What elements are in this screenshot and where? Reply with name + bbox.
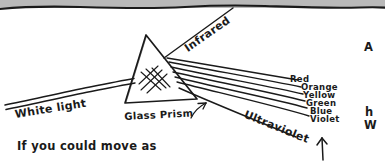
prism-diagram-drawing	[0, 0, 385, 161]
bottom-up-arrow	[317, 138, 327, 160]
ray-red	[167, 58, 298, 80]
margin-fragment-top-right: A	[364, 40, 373, 54]
body-caption-text: If you could move as	[17, 139, 157, 153]
ray-orange	[169, 62, 301, 87]
margin-fragment-lower-right-1: h	[365, 105, 374, 119]
prism-hatching	[139, 66, 170, 93]
scanned-page: White light Glass Prism Infrared Ultravi…	[0, 0, 385, 161]
margin-fragment-lower-right-2: W	[364, 118, 377, 132]
page-edge-line	[0, 5, 385, 9]
spectrum-label-violet: Violet	[310, 114, 340, 124]
